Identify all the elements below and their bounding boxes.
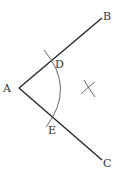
label-c: C: [103, 157, 111, 170]
label-b: B: [103, 10, 111, 23]
label-e: E: [48, 124, 56, 137]
ray-ab: [19, 18, 102, 88]
ray-ac: [19, 88, 102, 160]
label-a: A: [2, 82, 12, 95]
cross-marks: [81, 80, 95, 97]
cross-mark-2: [81, 82, 95, 94]
cross-mark-1: [84, 80, 95, 97]
angle-bisector-diagram: A B C D E: [0, 0, 123, 170]
label-d: D: [55, 58, 64, 71]
